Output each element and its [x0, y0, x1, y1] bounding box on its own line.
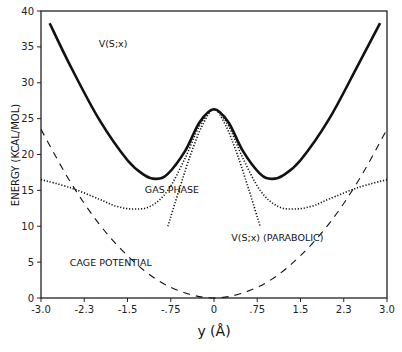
energy-chart: -3.0-2.3-1.5-.750.751.52.33.005101520253… — [0, 0, 402, 352]
x-tick-label: 2.3 — [336, 304, 352, 315]
annotations: V(S;x)GAS PHASEV(S;x) (PARABOLIC)CAGE PO… — [70, 38, 324, 268]
x-axis-label: y (Å) — [197, 323, 230, 339]
y-tick-label: 15 — [21, 185, 34, 196]
series-gas-phase — [41, 109, 387, 209]
y-tick-label: 0 — [28, 293, 34, 304]
x-tick-label: 0 — [211, 304, 217, 315]
plot-frame — [41, 11, 387, 298]
series-v-s-x-parabolic — [168, 109, 260, 226]
y-axis-label: ENERGY (KCAL/MOL) — [10, 104, 21, 206]
x-tick-label: 1.5 — [293, 304, 309, 315]
y-tick-label: 10 — [21, 221, 34, 232]
x-tick-label: 3.0 — [379, 304, 395, 315]
annotation-label: V(S;x) — [99, 38, 128, 49]
y-tick-label: 25 — [21, 113, 34, 124]
series-cage-potential — [41, 129, 387, 298]
x-tick-label: .75 — [249, 304, 265, 315]
y-tick-label: 20 — [21, 149, 34, 160]
axes: -3.0-2.3-1.5-.750.751.52.33.005101520253… — [21, 6, 395, 316]
y-tick-label: 30 — [21, 77, 34, 88]
x-tick-label: -.75 — [161, 304, 181, 315]
y-tick-label: 40 — [21, 6, 34, 17]
y-tick-label: 35 — [21, 41, 34, 52]
annotation-label: CAGE POTENTIAL — [70, 257, 153, 268]
annotation-label: GAS PHASE — [145, 184, 199, 195]
x-tick-label: -3.0 — [31, 304, 51, 315]
y-tick-label: 5 — [28, 257, 34, 268]
x-tick-label: -2.3 — [74, 304, 94, 315]
annotation-label: V(S;x) (PARABOLIC) — [231, 232, 323, 243]
x-tick-label: -1.5 — [118, 304, 138, 315]
